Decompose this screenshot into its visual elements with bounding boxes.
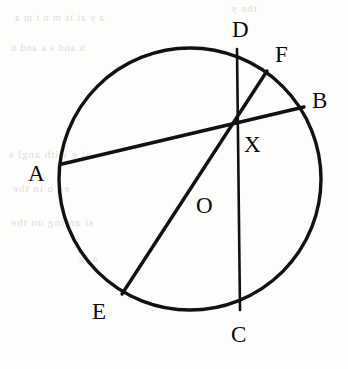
chord-E-F — [122, 71, 267, 294]
label-O: O — [196, 194, 213, 217]
diagram-page: the ya y ai is m n t m an and s a and no… — [0, 0, 348, 369]
label-F: F — [275, 43, 288, 66]
label-X: X — [244, 133, 261, 156]
circle-geometry-figure — [0, 0, 348, 369]
circle-outline — [59, 48, 321, 310]
label-E: E — [92, 300, 106, 323]
label-B: B — [312, 89, 327, 112]
label-D: D — [232, 18, 249, 41]
chord-A-B — [62, 107, 304, 164]
chord-D-C — [237, 49, 240, 310]
label-A: A — [28, 162, 45, 185]
label-C: C — [231, 323, 246, 346]
